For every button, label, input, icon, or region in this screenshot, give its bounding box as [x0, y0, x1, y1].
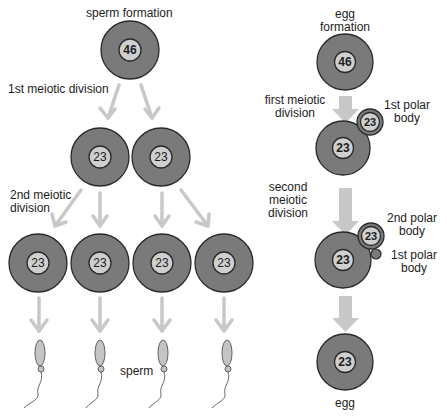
chromosome-count: 23 [150, 257, 174, 270]
first-polar-body-label-b-line2: body [382, 262, 446, 275]
second-polar-body-label-line2: body [380, 225, 444, 238]
second-meiotic-division-label-line2: division [10, 202, 50, 215]
chromosome-count: 23 [212, 257, 236, 270]
first-meiotic-division-label: 1st meiotic division [8, 83, 109, 96]
chromosome-count: 23 [88, 257, 112, 270]
chromosome-count: 23 [149, 151, 173, 164]
second-meiotic-division-egg-line3: division [255, 207, 321, 220]
chromosome-count: 46 [333, 56, 357, 69]
sperm-4 [212, 340, 232, 408]
sperm-label: sperm [120, 365, 153, 378]
meiosis-diagram [0, 0, 447, 416]
first-polar-body-small [371, 249, 381, 259]
first-polar-body-label-line2: body [375, 112, 439, 125]
chromosome-count: 23 [333, 356, 357, 369]
sperm-2 [86, 340, 105, 408]
chromosome-count: 23 [26, 257, 50, 270]
chromosome-count: 23 [331, 142, 355, 155]
sperm-1 [24, 340, 45, 408]
chromosome-count: 23 [331, 254, 355, 267]
sperm-formation-title: sperm formation [86, 7, 173, 20]
chromosome-count: 46 [118, 44, 142, 57]
sperm-arrows [31, 85, 232, 331]
first-meiotic-division-egg-line2: division [255, 107, 335, 120]
egg-formation-title-line2: formation [305, 21, 385, 34]
egg-label: egg [320, 397, 370, 410]
chromosome-count: 23 [88, 151, 112, 164]
